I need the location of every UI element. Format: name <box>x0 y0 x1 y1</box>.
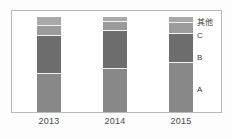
legend-item-a[interactable]: A <box>197 85 202 94</box>
bar-segment-2015-b[interactable] <box>169 34 193 63</box>
bar-segment-2015-a[interactable] <box>169 63 193 112</box>
stacked-bar-chart: 2013 2014 2015 其他 C B A <box>0 0 232 139</box>
bar-segment-2013-c[interactable] <box>37 26 61 35</box>
bar-segment-2014-c[interactable] <box>103 22 127 31</box>
bar-segment-2013-other[interactable] <box>37 17 61 26</box>
legend-item-other[interactable]: 其他 <box>197 18 213 27</box>
bar-segment-2013-a[interactable] <box>37 74 61 112</box>
legend-item-b[interactable]: B <box>197 53 202 62</box>
bar-segment-2014-a[interactable] <box>103 69 127 112</box>
bar-column-2015[interactable] <box>169 17 193 112</box>
x-tick-label-2014: 2014 <box>85 116 145 126</box>
bar-segment-2015-c[interactable] <box>169 23 193 34</box>
bar-segment-2014-b[interactable] <box>103 31 127 69</box>
bar-column-2013[interactable] <box>37 17 61 112</box>
plot-area <box>11 10 222 113</box>
legend-item-c[interactable]: C <box>197 31 203 40</box>
bar-column-2014[interactable] <box>103 17 127 112</box>
x-tick-label-2013: 2013 <box>19 116 79 126</box>
x-tick-label-2015: 2015 <box>151 116 211 126</box>
bar-segment-2013-b[interactable] <box>37 36 61 74</box>
